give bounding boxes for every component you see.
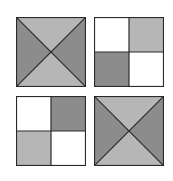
tile-bottom-right	[94, 96, 164, 166]
quadrant-br	[129, 52, 164, 87]
quadrant-tl	[94, 17, 129, 52]
quadrant-br	[51, 131, 86, 166]
quadrant-tl	[16, 96, 51, 131]
quadrant-square-icon	[16, 96, 86, 166]
tile-top-left	[16, 17, 86, 87]
quadrant-tr	[51, 96, 86, 131]
x-triangle-square-icon	[94, 96, 164, 166]
tile-top-right	[94, 17, 164, 87]
quadrant-bl	[94, 52, 129, 87]
quadrant-square-icon	[94, 17, 164, 87]
tile-bottom-left	[16, 96, 86, 166]
quadrant-bl	[16, 131, 51, 166]
quadrant-tr	[129, 17, 164, 52]
x-triangle-square-icon	[16, 17, 86, 87]
